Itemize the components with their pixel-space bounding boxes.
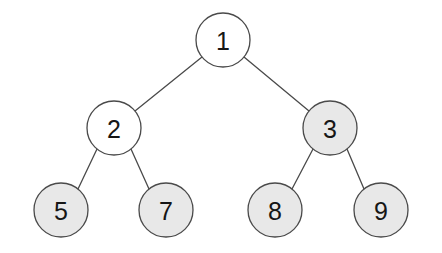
node-label-5: 5 — [54, 197, 68, 225]
node-layer: 1235789 — [34, 13, 408, 237]
tree-diagram-canvas: 1235789 — [0, 0, 442, 253]
tree-node-5[interactable]: 5 — [34, 183, 88, 237]
node-label-8: 8 — [268, 197, 282, 225]
tree-node-2[interactable]: 2 — [87, 101, 141, 155]
node-label-9: 9 — [374, 197, 388, 225]
node-label-1: 1 — [216, 27, 230, 55]
node-label-7: 7 — [159, 197, 173, 225]
node-label-2: 2 — [107, 115, 121, 143]
tree-node-1[interactable]: 1 — [196, 13, 250, 67]
tree-node-3[interactable]: 3 — [303, 101, 357, 155]
node-label-3: 3 — [323, 115, 337, 143]
tree-node-9[interactable]: 9 — [354, 183, 408, 237]
tree-edge-n3-n9 — [347, 149, 364, 189]
tree-edge-n1-n2 — [135, 57, 202, 111]
tree-edge-n2-n5 — [78, 149, 97, 189]
tree-diagram-svg: 1235789 — [0, 0, 442, 253]
tree-node-7[interactable]: 7 — [139, 183, 193, 237]
tree-edge-n3-n8 — [292, 149, 313, 189]
tree-edge-n2-n7 — [131, 149, 149, 189]
tree-node-8[interactable]: 8 — [248, 183, 302, 237]
tree-edge-n1-n3 — [244, 57, 309, 111]
